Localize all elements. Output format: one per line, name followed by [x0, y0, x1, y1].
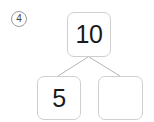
whole-box[interactable]: 10: [67, 12, 111, 57]
part-box-left[interactable]: 5: [37, 76, 81, 120]
number-bond-worksheet-item: 4 10 5: [0, 0, 154, 122]
part-box-left-value: 5: [38, 77, 80, 119]
connector-line-left: [58, 57, 88, 76]
connector-line-right: [89, 57, 120, 76]
problem-number-label: 4: [12, 12, 26, 26]
part-box-right[interactable]: [98, 76, 143, 120]
circled-number-icon: 4: [11, 11, 27, 27]
part-box-right-value: [99, 77, 142, 119]
whole-box-value: 10: [68, 13, 110, 56]
